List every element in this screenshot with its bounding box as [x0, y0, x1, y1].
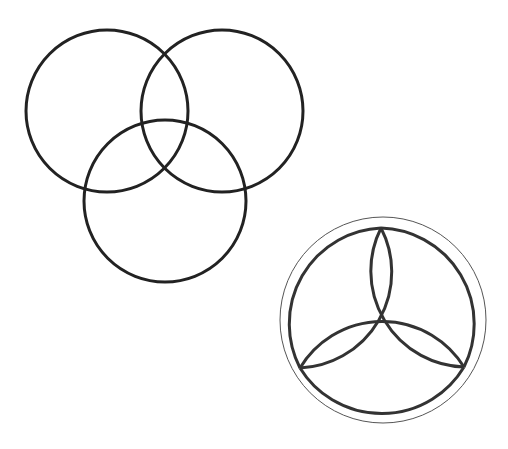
diagram-canvas — [0, 0, 508, 449]
venn-diagram — [26, 30, 303, 282]
arc-left-inner — [300, 228, 392, 368]
arc-right-inner — [371, 228, 464, 367]
venn-circle-3 — [84, 120, 246, 282]
arc-left-outer — [289, 228, 381, 368]
venn-circle-2 — [141, 30, 303, 192]
arc-right-outer — [381, 228, 474, 367]
triquetra-diagram — [280, 217, 486, 423]
arc-top — [300, 321, 464, 368]
